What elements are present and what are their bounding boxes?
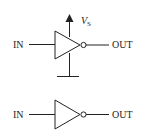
top-inverter-triangle [55,31,80,59]
bottom-inverter [29,100,109,129]
supply-label-subscript: S [87,20,91,28]
top-input-label: IN [13,39,24,50]
top-inversion-bubble [81,42,86,47]
top-inverter [29,22,109,77]
bottom-input-label: IN [13,109,24,120]
bottom-output-label: OUT [112,109,133,120]
supply-label: VS [81,15,91,28]
bottom-inversion-bubble [81,112,86,117]
top-output-label: OUT [112,39,133,50]
bottom-inverter-triangle [55,100,80,129]
supply-arrow-icon [66,14,74,22]
inverter-diagram: IN OUT VS IN OUT [0,0,142,138]
